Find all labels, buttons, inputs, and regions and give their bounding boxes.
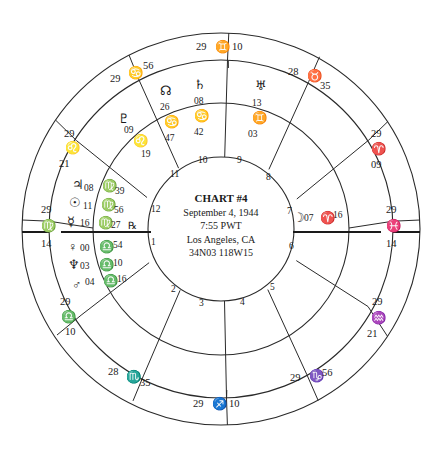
house-number-1: 1 (151, 237, 156, 247)
saturn-sign-glyph: ♋ (194, 108, 210, 123)
sun-degree: 11 (83, 201, 92, 211)
mercury-retrograde-icon: ℞ (128, 221, 137, 231)
house-number-5: 5 (270, 282, 275, 292)
chart-date: September 4, 1944 (183, 207, 258, 218)
cusp-10-mc[interactable]: 29 ♊ 10 (196, 39, 243, 54)
mercury-degree: 16 (80, 218, 90, 228)
neptune-minute: 10 (113, 258, 123, 268)
chart-title: CHART #4 (195, 192, 248, 204)
jupiter-degree: 08 (84, 183, 94, 193)
chart-info-block: CHART #4 September 4, 1944 7:55 PWT Los … (183, 192, 258, 258)
sun-minute: 56 (114, 205, 124, 215)
venus-degree: 00 (80, 243, 90, 253)
north-node-minute: 47 (165, 133, 175, 143)
neptune-degree: 03 (80, 261, 90, 271)
planet-saturn[interactable]: ♄ 08 ♋ 42 (194, 78, 210, 137)
cusp-4-ic-minute: 10 (229, 398, 240, 409)
planet-moon[interactable]: ☽ 07 ♈ 16 (293, 210, 343, 225)
cusp-2-degree: 29 (60, 296, 71, 307)
planet-placements: ♄ 08 ♋ 42 ♅ 13 ♊ 03 ☊ 26 ♋ 47 ♇ (67, 78, 343, 292)
cusp-4-ic[interactable]: 29 ♐ 10 (193, 396, 240, 411)
saturn-degree: 08 (194, 96, 204, 106)
sun-icon: ☉ (69, 196, 81, 210)
planet-uranus[interactable]: ♅ 13 ♊ 03 (248, 79, 268, 139)
cusp-6[interactable]: 29 ♒ 21 (367, 296, 387, 339)
cusp-8-minute: 09 (371, 159, 382, 170)
cusp-7-dsc-minute: 14 (386, 238, 397, 249)
mars-degree: 04 (85, 277, 95, 287)
cusp-3-degree: 28 (108, 366, 119, 377)
venus-icon: ♀ (68, 240, 77, 254)
house-number-10: 10 (198, 155, 208, 165)
house-number-3: 3 (199, 298, 204, 308)
cusp-12-degree: 29 (64, 128, 75, 139)
house-number-9: 9 (237, 155, 242, 165)
pluto-minute: 19 (141, 149, 151, 159)
cusp-12-minute: 21 (59, 158, 70, 169)
cusp-9[interactable]: 28 ♉ 35 (288, 66, 331, 91)
cusp-5-degree: 29 (290, 372, 301, 383)
cusp-5[interactable]: 29 ♑ 56 (290, 367, 333, 383)
mercury-icon: ☿ (67, 215, 75, 229)
planet-pluto[interactable]: ♇ 09 ♌ 19 (118, 112, 151, 159)
planet-mars[interactable]: ♂ 04 ♎ 16 (72, 273, 127, 292)
cusp-11-minute: 56 (143, 60, 154, 71)
planet-neptune[interactable]: ♆ 03 ♎ 10 (68, 257, 123, 272)
cusp-7-dsc-degree: 29 (386, 204, 397, 215)
mercury-minute: 27 (111, 220, 121, 230)
cusp-8-degree: 29 (371, 128, 382, 139)
chart-svg: 29 ♊ 10 29 ♋ 56 29 ♌ 21 29 ♍ 14 (0, 0, 443, 458)
uranus-sign-glyph: ♊ (252, 110, 268, 125)
uranus-minute: 03 (248, 129, 258, 139)
moon-minute: 16 (333, 210, 343, 220)
pluto-icon: ♇ (118, 112, 130, 126)
cusp-10-mc-sign-glyph: ♊ (215, 39, 231, 54)
cusp-2-sign-glyph: ♎ (61, 309, 77, 324)
chart-place: Los Angeles, CA (187, 234, 256, 245)
cusp-4-ic-sign-glyph: ♐ (212, 396, 228, 411)
cusp-3-minute: 35 (140, 377, 151, 388)
cusp-7-dsc-sign-glyph: ♓ (386, 218, 402, 233)
cusp-1-asc[interactable]: 29 ♍ 14 (41, 204, 57, 249)
cusp-11-degree: 29 (110, 73, 121, 84)
mars-minute: 16 (117, 274, 127, 284)
chart-time: 7:55 PWT (200, 220, 241, 231)
jupiter-icon: ♃ (72, 178, 84, 192)
north-node-sign-glyph: ♋ (164, 114, 180, 129)
cusp-10-mc-minute: 10 (232, 41, 243, 52)
north-node-icon: ☊ (160, 84, 172, 98)
house-number-11: 11 (170, 169, 179, 179)
uranus-icon: ♅ (255, 79, 267, 93)
pluto-sign-glyph: ♌ (133, 133, 149, 148)
cusp-1-asc-sign-glyph: ♍ (41, 218, 57, 233)
planet-mercury[interactable]: ☿ 16 ♍ 27 ℞ (67, 215, 137, 231)
house-number-2: 2 (171, 284, 176, 294)
chart-coordinates: 34N03 118W15 (189, 247, 253, 258)
cusp-6-sign-glyph: ♒ (371, 310, 387, 325)
north-node-degree: 26 (160, 102, 170, 112)
cusp-4-ic-degree: 29 (193, 398, 204, 409)
cusp-8[interactable]: 29 ♈ 09 (371, 128, 387, 170)
cusp-8-sign-glyph: ♈ (371, 141, 387, 156)
cusp-5-minute: 56 (322, 367, 333, 378)
saturn-icon: ♄ (194, 78, 206, 92)
moon-degree: 07 (304, 213, 314, 223)
cusp-12[interactable]: 29 ♌ 21 (59, 128, 81, 169)
astrology-chart: 29 ♊ 10 29 ♋ 56 29 ♌ 21 29 ♍ 14 (0, 0, 443, 458)
cusp-7-dsc[interactable]: 29 ♓ 14 (386, 204, 402, 249)
house-number-7: 7 (287, 206, 292, 216)
cusp-11[interactable]: 29 ♋ 56 (110, 60, 154, 84)
cusp-6-degree: 29 (372, 296, 383, 307)
cusp-1-asc-degree: 29 (41, 204, 52, 215)
cusp-11-sign-glyph: ♋ (128, 65, 144, 80)
cusp-10-mc-degree: 29 (196, 41, 207, 52)
jupiter-minute: 39 (115, 186, 125, 196)
cusp-2-minute: 10 (65, 326, 76, 337)
uranus-degree: 13 (252, 98, 262, 108)
cusp-3[interactable]: 28 ♏ 35 (108, 366, 151, 388)
cusp-1-asc-minute: 14 (41, 238, 52, 249)
cusp-12-sign-glyph: ♌ (65, 140, 81, 155)
cusp-9-degree: 28 (288, 66, 299, 77)
neptune-icon: ♆ (68, 258, 80, 272)
house-number-4: 4 (240, 297, 245, 307)
